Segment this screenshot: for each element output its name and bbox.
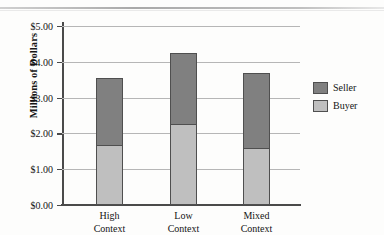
y-axis-line xyxy=(62,22,64,205)
x-label-line-2: Context xyxy=(241,223,273,235)
bar-segment-seller[interactable] xyxy=(243,73,270,148)
bar-mixed-context[interactable]: Mixed Context xyxy=(243,73,270,205)
legend-swatch-seller xyxy=(313,82,328,94)
x-tick-label-low-context: Low Context xyxy=(168,210,200,234)
x-tick-label-mixed-context: Mixed Context xyxy=(241,210,273,234)
page-rule xyxy=(0,7,384,9)
gridline-5: $5.00 xyxy=(62,26,300,27)
y-tick-label-3: $3.00 xyxy=(31,92,54,103)
y-tick-label-0: $0.00 xyxy=(31,200,54,211)
x-tick-label-high-context: High Context xyxy=(94,210,126,234)
chart-figure: Millions of Dollars $5.00 $4.00 $3.00 $2… xyxy=(0,0,384,234)
gridline-0: $0.00 xyxy=(62,205,300,206)
y-tick-label-1: $1.00 xyxy=(31,164,54,175)
legend-swatch-buyer xyxy=(313,100,328,112)
bar-high-context[interactable]: High Context xyxy=(96,78,123,205)
chart-legend: Seller Buyer xyxy=(313,80,357,116)
x-label-line-1: High xyxy=(94,210,126,223)
bar-low-context[interactable]: Low Context xyxy=(170,53,197,205)
y-tick-label-4: $4.00 xyxy=(31,56,54,67)
y-tick-label-5: $5.00 xyxy=(31,21,54,32)
y-tick-1 xyxy=(57,169,62,170)
y-tick-2 xyxy=(57,133,62,134)
plot-area: $5.00 $4.00 $3.00 $2.00 $1.00 $0.00 High xyxy=(62,26,300,205)
y-tick-3 xyxy=(57,98,62,99)
y-tick-label-2: $2.00 xyxy=(31,128,54,139)
page-rule-shadow xyxy=(0,10,384,11)
x-label-line-2: Context xyxy=(94,223,126,235)
y-tick-5 xyxy=(57,26,62,27)
bar-segment-seller[interactable] xyxy=(96,78,123,145)
legend-label-buyer: Buyer xyxy=(333,100,357,111)
bar-segment-buyer[interactable] xyxy=(243,148,270,205)
y-tick-4 xyxy=(57,62,62,63)
x-label-line-1: Mixed xyxy=(241,210,273,223)
bar-segment-seller[interactable] xyxy=(170,53,197,125)
x-label-line-1: Low xyxy=(168,210,200,223)
y-tick-0 xyxy=(57,205,62,206)
bar-segment-buyer[interactable] xyxy=(170,124,197,205)
bar-segment-buyer[interactable] xyxy=(96,145,123,205)
legend-item-buyer[interactable]: Buyer xyxy=(313,98,357,113)
x-label-line-2: Context xyxy=(168,223,200,235)
legend-label-seller: Seller xyxy=(333,82,356,93)
legend-item-seller[interactable]: Seller xyxy=(313,80,357,95)
